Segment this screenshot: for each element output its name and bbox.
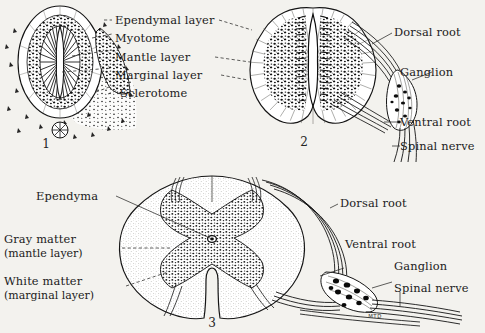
fig3-ependyma — [210, 238, 214, 241]
label-ventral-root-fig2: Ventral root — [399, 115, 471, 129]
figure-3-number: 3 — [208, 316, 216, 330]
label-ganglion-fig2: Ganglion — [400, 65, 454, 79]
label-ependymal-layer: Ependymal layer — [115, 13, 215, 27]
figure-1-number: 1 — [42, 137, 50, 151]
label-sclerotome: Sclerotome — [120, 86, 187, 100]
label-white-matter: White matter — [4, 274, 83, 288]
label-white-matter-sub: (marginal layer) — [4, 289, 94, 302]
label-gray-matter-sub: (mantle layer) — [4, 247, 83, 260]
artist-signature: MTD — [368, 313, 382, 319]
anatomical-plate: 1 Ependymal layer Myotome Mantle layer M… — [0, 0, 485, 333]
label-gray-matter: Gray matter — [4, 232, 76, 246]
label-marginal-layer: Marginal layer — [115, 68, 203, 82]
label-ventral-root-fig3: Ventral root — [344, 237, 416, 251]
label-spinal-nerve-fig2: Spinal nerve — [400, 139, 475, 153]
label-spinal-nerve-fig3: Spinal nerve — [394, 281, 469, 295]
label-myotome: Myotome — [115, 31, 170, 45]
label-ganglion-fig3: Ganglion — [394, 259, 448, 273]
label-dorsal-root-fig2: Dorsal root — [394, 25, 461, 39]
fig2-central-canal — [308, 14, 317, 106]
figure-2-number: 2 — [300, 135, 308, 149]
fig1-central-canal — [56, 26, 63, 99]
fig1-notochord — [52, 122, 68, 138]
label-ependyma: Ependyma — [36, 189, 98, 203]
label-mantle-layer: Mantle layer — [115, 50, 191, 64]
label-dorsal-root-fig3: Dorsal root — [340, 196, 407, 210]
